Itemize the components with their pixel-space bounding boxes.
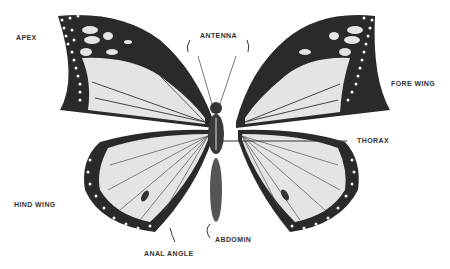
label-hind-wing: HIND WING bbox=[14, 201, 56, 208]
label-thorax: THORAX bbox=[357, 137, 389, 144]
abdomen bbox=[210, 158, 222, 222]
right-hind-wing bbox=[238, 130, 359, 232]
left-fore-wing bbox=[58, 15, 214, 129]
label-fore-wing: FORE WING bbox=[391, 80, 435, 87]
right-fore-wing bbox=[236, 15, 390, 128]
butterfly-illustration bbox=[0, 0, 450, 269]
label-abdomen: ABDOMIN bbox=[215, 236, 251, 243]
label-anal-angle: ANAL ANGLE bbox=[144, 250, 194, 257]
label-apex: APEX bbox=[16, 34, 37, 41]
left-hind-wing bbox=[84, 130, 212, 232]
label-antenna: ANTENNA bbox=[200, 32, 237, 39]
